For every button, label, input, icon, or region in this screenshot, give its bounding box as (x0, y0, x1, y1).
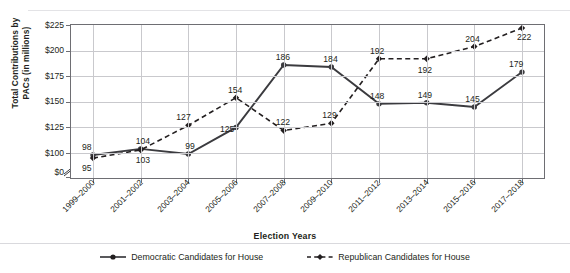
gridline-vertical (331, 25, 332, 178)
x-tick-label: 2003–2004 (155, 177, 192, 214)
data-value-label: 149 (418, 90, 432, 100)
y-tick-label: $150 (18, 97, 64, 106)
y-tick-label: $100 (18, 149, 64, 158)
data-value-label: 125 (220, 124, 234, 134)
y-tick-label: $175 (18, 72, 64, 81)
data-value-label: 222 (517, 32, 531, 42)
gridline-vertical (236, 25, 237, 178)
data-value-label: 95 (82, 163, 92, 173)
data-value-label: 192 (418, 65, 432, 75)
gridline-vertical (93, 25, 94, 178)
x-tick-label: 2013–2014 (394, 177, 431, 214)
data-value-label: 129 (322, 110, 336, 120)
data-value-label: 98 (82, 142, 92, 152)
y-tick-label: $125 (18, 123, 64, 132)
y-axis-title-line1: Total Contributions by (10, 18, 20, 109)
gridline-horizontal (71, 76, 544, 77)
x-tick-label: 2005–2006 (203, 177, 240, 214)
legend-label-democratic: Democratic Candidates for House (131, 252, 263, 262)
data-value-label: 154 (228, 85, 242, 95)
legend-item-republican[interactable]: Republican Candidates for House (307, 252, 470, 262)
gridline-vertical (427, 25, 428, 178)
y-tick-label-zero: $0 (18, 168, 64, 177)
x-tick-label: 2015–2016 (441, 177, 478, 214)
x-tick-label: 2017–2018 (489, 177, 526, 214)
data-value-label: 204 (465, 34, 479, 44)
legend-item-democratic[interactable]: Democratic Candidates for House (100, 252, 263, 262)
gridline-horizontal (71, 127, 544, 128)
chart-figure: Total Contributions by PACs (in millions… (0, 0, 570, 273)
x-tick-label: 1999–2000 (60, 177, 97, 214)
data-value-label: 192 (370, 46, 384, 56)
data-value-label: 104 (136, 136, 150, 146)
data-value-label: 148 (370, 91, 384, 101)
x-axis-title: Election Years (0, 231, 570, 241)
gridline-vertical (284, 25, 285, 178)
gridline-horizontal (71, 153, 544, 154)
x-tick-label: 2001–2002 (108, 177, 145, 214)
data-value-label: 99 (185, 141, 195, 151)
data-value-label: 127 (176, 112, 190, 122)
chart-legend: Democratic Candidates for House Republic… (0, 252, 570, 262)
legend-solid-line-circle-icon (100, 252, 126, 262)
series-line-democratic (93, 65, 522, 155)
gridline-vertical (522, 25, 523, 178)
x-tick-label: 2009–2010 (298, 177, 335, 214)
legend-dashed-line-diamond-icon (307, 252, 333, 262)
series-line-republican (93, 28, 522, 158)
data-value-label: 184 (323, 54, 337, 64)
x-tick-label: 2007–2008 (251, 177, 288, 214)
gridline-vertical (188, 25, 189, 178)
data-value-label: 179 (509, 59, 523, 69)
header-divider (28, 10, 570, 11)
data-value-label: 145 (465, 94, 479, 104)
y-axis-title-line2: PACs (in millions) (21, 27, 31, 100)
data-value-label: 122 (276, 117, 290, 127)
legend-label-republican: Republican Candidates for House (338, 252, 470, 262)
data-value-label: 186 (276, 52, 290, 62)
y-tick-label: $225 (18, 21, 64, 30)
gridline-horizontal (71, 51, 544, 52)
x-tick-label: 2011–2012 (346, 178, 382, 214)
y-tick-label: $200 (18, 46, 64, 55)
data-value-label: 103 (136, 155, 150, 165)
clipped-header-artifact (248, 0, 448, 4)
